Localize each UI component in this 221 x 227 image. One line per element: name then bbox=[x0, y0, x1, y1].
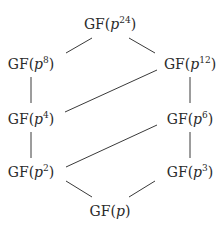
node-exponent: 8 bbox=[43, 55, 49, 65]
node-prefix: GF( bbox=[164, 56, 190, 72]
node-variable: p bbox=[34, 56, 43, 72]
node-suffix: ) bbox=[49, 164, 54, 180]
node-gf-p12: GF(p12) bbox=[164, 57, 216, 72]
node-gf-p6: GF(p6) bbox=[167, 112, 214, 127]
node-gf-p8: GF(p8) bbox=[8, 57, 55, 72]
node-variable: p bbox=[193, 111, 202, 127]
edge-p24-p12 bbox=[129, 38, 155, 53]
node-prefix: GF( bbox=[8, 164, 34, 180]
node-exponent: 3 bbox=[202, 163, 208, 173]
node-suffix: ) bbox=[49, 56, 54, 72]
node-prefix: GF( bbox=[167, 164, 193, 180]
node-prefix: GF( bbox=[8, 111, 34, 127]
node-exponent: 6 bbox=[202, 110, 208, 120]
node-prefix: GF( bbox=[167, 111, 193, 127]
node-variable: p bbox=[190, 56, 199, 72]
node-gf-p1: GF(p) bbox=[90, 204, 131, 218]
edge-p12-p4 bbox=[65, 70, 157, 112]
node-exponent: 12 bbox=[199, 55, 210, 65]
edge-p24-p8 bbox=[66, 38, 92, 53]
node-suffix: ) bbox=[208, 164, 213, 180]
node-gf-p3: GF(p3) bbox=[167, 165, 214, 180]
node-variable: p bbox=[193, 164, 202, 180]
edge-p3-p1 bbox=[129, 181, 155, 197]
node-variable: p bbox=[34, 164, 43, 180]
node-prefix: GF( bbox=[84, 16, 110, 32]
node-variable: p bbox=[110, 16, 119, 32]
node-gf-p4: GF(p4) bbox=[8, 112, 55, 127]
node-variable: p bbox=[116, 203, 125, 219]
node-prefix: GF( bbox=[8, 56, 34, 72]
node-exponent: 4 bbox=[43, 110, 49, 120]
edge-p2-p1 bbox=[66, 181, 92, 197]
node-suffix: ) bbox=[211, 56, 216, 72]
node-exponent: 24 bbox=[119, 15, 130, 25]
node-suffix: ) bbox=[131, 16, 136, 32]
node-prefix: GF( bbox=[90, 203, 116, 219]
node-suffix: ) bbox=[208, 111, 213, 127]
node-variable: p bbox=[34, 111, 43, 127]
node-gf-p24: GF(p24) bbox=[84, 17, 136, 32]
node-exponent: 2 bbox=[43, 163, 49, 173]
node-gf-p2: GF(p2) bbox=[8, 165, 55, 180]
edge-p6-p2 bbox=[66, 125, 157, 167]
node-suffix: ) bbox=[49, 111, 54, 127]
node-suffix: ) bbox=[125, 203, 130, 219]
